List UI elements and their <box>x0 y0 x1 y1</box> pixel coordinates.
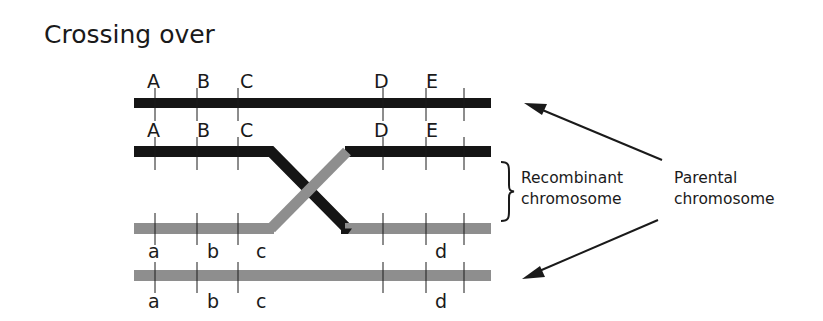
light-segment-right <box>345 223 491 234</box>
diagram-title: Crossing over <box>44 20 216 49</box>
arrow-line <box>537 220 658 272</box>
gene-label: d <box>435 290 447 312</box>
gene-label: c <box>256 240 266 262</box>
arrow-to-parental-light <box>522 220 658 279</box>
gene-label: C <box>240 119 253 141</box>
recombinant-label-line2: chromosome <box>521 190 622 208</box>
gene-label: c <box>256 290 266 312</box>
gene-label: a <box>148 240 160 262</box>
arrow-to-parental-dark <box>524 103 662 160</box>
gene-label: E <box>426 70 438 92</box>
parental-chromosome-dark: A B C D E <box>134 70 491 121</box>
gene-label: d <box>435 240 447 262</box>
gene-label: E <box>426 119 438 141</box>
gene-label: b <box>207 240 219 262</box>
recombinant-chromosomes: A B C D E a b c d <box>134 119 491 262</box>
arrow-line <box>540 109 662 160</box>
recombinant-brace <box>501 162 514 221</box>
gene-label: D <box>374 70 389 92</box>
gene-label: B <box>197 119 210 141</box>
parental-chromosome-light: a b c d <box>134 262 491 312</box>
gene-label: A <box>147 70 160 92</box>
gene-label: D <box>374 119 389 141</box>
dark-segment-right <box>345 146 491 157</box>
chromosome-bar <box>134 98 491 108</box>
parental-label-line2: chromosome <box>674 190 775 208</box>
recombinant-label-line1: Recombinant <box>521 169 623 187</box>
crossing-over-diagram: Crossing over A B C D E <box>0 0 823 321</box>
gene-label: A <box>147 119 160 141</box>
arrowhead-icon <box>524 103 547 115</box>
parental-label-line1: Parental <box>674 169 737 187</box>
gene-label: B <box>197 70 210 92</box>
gene-label: C <box>240 70 253 92</box>
chromosome-bar <box>134 270 491 281</box>
gene-label: a <box>148 290 160 312</box>
gene-label: b <box>207 290 219 312</box>
arrowhead-icon <box>522 266 545 279</box>
